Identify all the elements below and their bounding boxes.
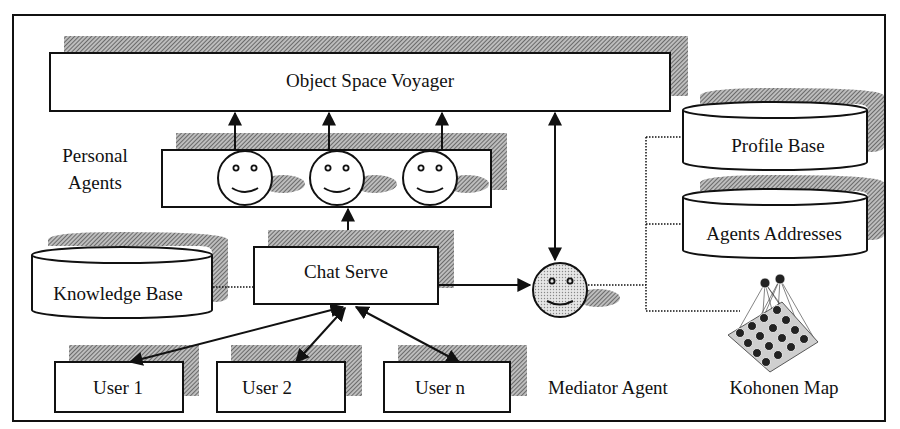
- user-2-node[interactable]: User 2: [217, 345, 362, 412]
- kohonen-map-node[interactable]: Kohonen Map: [728, 274, 839, 398]
- knowledge-base-node[interactable]: Knowledge Base: [32, 232, 228, 318]
- kohonen-map-label: Kohonen Map: [729, 377, 838, 398]
- chat-server-node[interactable]: Chat Serve: [254, 230, 454, 304]
- mediator-agent-label: Mediator Agent: [548, 377, 669, 398]
- knowledge-base-label: Knowledge Base: [53, 283, 182, 304]
- personal-agents-label-line1: Personal: [62, 145, 127, 166]
- object-space-voyager-label: Object Space Voyager: [286, 70, 455, 91]
- agents-addresses-label: Agents Addresses: [706, 223, 842, 244]
- user-1-label: User 1: [93, 377, 143, 398]
- profile-base-label: Profile Base: [731, 135, 824, 156]
- user-1-node[interactable]: User 1: [55, 345, 199, 412]
- personal-agents-label-line2: Agents: [68, 172, 122, 193]
- smiley-face-icon: [403, 151, 457, 205]
- user-n-node[interactable]: User n: [384, 345, 527, 412]
- neural-network-icon: [728, 274, 818, 372]
- agents-addresses-node[interactable]: Agents Addresses: [683, 175, 884, 258]
- chat-server-label: Chat Serve: [304, 261, 388, 282]
- smiley-face-icon: [533, 263, 587, 317]
- profile-base-node[interactable]: Profile Base: [683, 88, 884, 170]
- architecture-diagram: Object Space Voyager Personal Agents: [0, 0, 900, 429]
- smiley-face-icon: [218, 151, 272, 205]
- user-2-label: User 2: [242, 377, 292, 398]
- object-space-voyager-node[interactable]: Object Space Voyager: [50, 36, 688, 111]
- personal-agents-node[interactable]: [162, 133, 507, 207]
- smiley-face-icon: [310, 151, 364, 205]
- mediator-agent-node[interactable]: [533, 263, 620, 317]
- user-n-label: User n: [415, 377, 466, 398]
